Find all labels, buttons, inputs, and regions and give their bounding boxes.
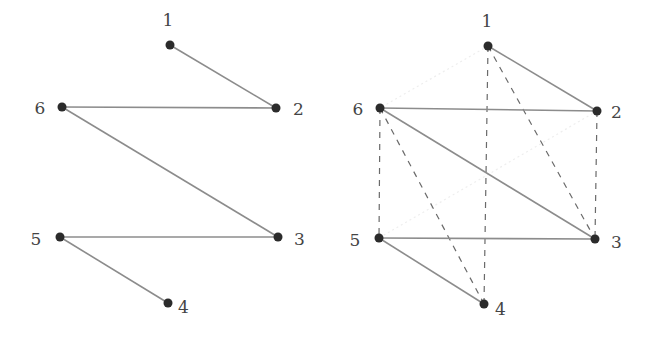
node-label-2: 2 bbox=[611, 102, 622, 122]
edge-6-3-solid bbox=[380, 108, 595, 239]
node-label-6: 6 bbox=[35, 98, 46, 118]
node-3 bbox=[274, 233, 283, 242]
edge-6-5-dashed bbox=[379, 108, 380, 238]
node-4 bbox=[164, 299, 173, 308]
node-5 bbox=[375, 234, 384, 243]
edge-6-3-solid bbox=[62, 107, 278, 237]
node-label-3: 3 bbox=[611, 232, 622, 252]
edge-1-2-solid bbox=[170, 45, 276, 108]
node-label-4: 4 bbox=[178, 297, 189, 317]
node-1 bbox=[484, 42, 493, 51]
node-3 bbox=[591, 235, 600, 244]
node-2 bbox=[593, 107, 602, 116]
node-5 bbox=[56, 233, 65, 242]
node-label-4: 4 bbox=[495, 299, 506, 319]
node-label-2: 2 bbox=[293, 99, 304, 119]
edge-1-3-dashed bbox=[488, 46, 595, 239]
edge-2-3-dashed bbox=[595, 111, 597, 239]
node-label-3: 3 bbox=[294, 229, 305, 249]
edge-6-4-dashed bbox=[380, 108, 484, 304]
node-4 bbox=[480, 300, 489, 309]
graph-right: 123456 bbox=[350, 11, 622, 319]
graph-left: 123456 bbox=[31, 10, 305, 317]
node-6 bbox=[376, 104, 385, 113]
edge-6-2-solid bbox=[380, 108, 597, 111]
node-6 bbox=[58, 103, 67, 112]
edge-5-4-solid bbox=[379, 238, 484, 304]
edge-1-2-solid bbox=[488, 46, 597, 111]
node-1 bbox=[166, 41, 175, 50]
edge-6-2-solid bbox=[62, 107, 276, 108]
edge-5-4-solid bbox=[60, 237, 168, 303]
edge-1-6-faint bbox=[380, 46, 488, 108]
graph-diagram: 123456 123456 bbox=[0, 0, 651, 337]
node-label-1: 1 bbox=[163, 10, 174, 30]
node-label-5: 5 bbox=[350, 230, 361, 250]
node-label-5: 5 bbox=[31, 229, 42, 249]
node-label-6: 6 bbox=[353, 99, 364, 119]
node-2 bbox=[272, 104, 281, 113]
node-label-1: 1 bbox=[482, 11, 493, 31]
edge-5-3-solid bbox=[379, 238, 595, 239]
